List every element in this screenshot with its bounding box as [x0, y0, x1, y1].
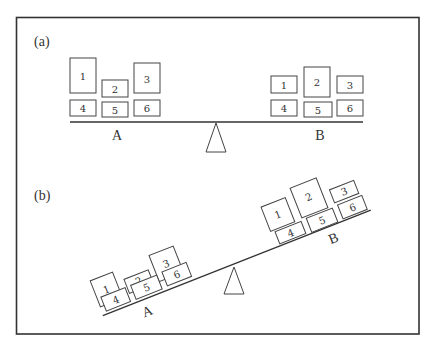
box-label: 2 [314, 77, 320, 88]
box-label: 4 [80, 103, 86, 114]
fulcrum [224, 267, 244, 294]
box-label: 3 [144, 74, 150, 85]
side-a-boxes: 1 2 3 4 5 6 [70, 58, 160, 117]
box-label: 5 [315, 105, 321, 116]
side-label-b: B [326, 230, 340, 247]
box-label: 1 [281, 80, 287, 91]
panel-a-label: (a) [34, 34, 50, 50]
box-label: 1 [80, 71, 86, 82]
side-label-a: A [112, 128, 123, 143]
beam [103, 210, 371, 316]
box-label: 6 [347, 103, 353, 114]
panel-b-label: (b) [34, 188, 51, 204]
box-label: 6 [144, 103, 150, 114]
tilted-beam-group: 1 2 3 4 5 6 A 1 2 3 4 [84, 164, 378, 335]
box-label: 2 [112, 84, 118, 95]
side-label-a: A [140, 302, 156, 320]
side-b-boxes: 1 2 3 4 5 6 [271, 67, 363, 117]
panel-a: (a) 1 2 3 4 5 6 A 1 2 3 4 [34, 34, 363, 152]
panel-b: (b) 1 2 3 4 5 6 A 1 [34, 164, 378, 335]
fulcrum [206, 123, 226, 152]
box-label: 4 [281, 103, 287, 114]
balance-diagram: (a) 1 2 3 4 5 6 A 1 2 3 4 [0, 0, 433, 350]
side-b-boxes: 1 2 3 4 5 6 [258, 165, 367, 247]
side-label-b: B [315, 128, 324, 143]
box-label: 3 [347, 80, 353, 91]
side-a-boxes: 1 2 3 4 5 6 [89, 244, 192, 313]
box-label: 5 [112, 105, 118, 116]
